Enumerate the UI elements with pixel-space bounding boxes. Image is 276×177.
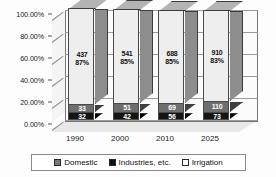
bar-segment-irrigation[interactable]: 437 87% — [68, 8, 94, 104]
legend-swatch-domestic-icon — [54, 159, 61, 166]
chart-legend: Domestic Industries, etc. Irrigation — [31, 154, 246, 171]
bar-segment-industries[interactable]: 73 — [203, 112, 229, 120]
bar-value-label-industries: 32 — [70, 113, 94, 121]
bar-value-label-irrigation: 688 — [160, 50, 184, 58]
bar-side-face — [95, 9, 108, 104]
bar-segment-irrigation[interactable]: 688 85% — [158, 10, 184, 103]
bar-side-face — [140, 10, 153, 103]
legend-item-irrigation[interactable]: Irrigation — [182, 158, 223, 167]
bar-value-label-domestic: 51 — [115, 104, 139, 112]
legend-label-irrigation: Irrigation — [192, 158, 223, 167]
y-axis-tick-label: 40.00% — [20, 76, 44, 85]
plot-area: 437 87% 33 32 541 85% 51 — [52, 10, 258, 132]
x-axis-label-2000: 2000 — [100, 134, 140, 143]
bar-segment-irrigation[interactable]: 910 83% — [203, 10, 229, 101]
bar-value-label-industries: 73 — [205, 113, 229, 121]
bar-value-label-irrigation: 910 — [205, 49, 229, 57]
bar-segment-domestic[interactable]: 33 — [68, 104, 94, 112]
bar-percent-label-irrigation: 85% — [115, 58, 139, 66]
bar-value-label-domestic: 69 — [160, 104, 184, 112]
legend-swatch-industries-icon — [109, 159, 116, 166]
bar-2025[interactable]: 910 83% 110 73 — [203, 10, 229, 120]
bar-value-label-industries: 42 — [115, 113, 139, 121]
y-axis-tick-label: 60.00% — [20, 54, 44, 63]
bar-segment-domestic[interactable]: 69 — [158, 103, 184, 112]
legend-item-domestic[interactable]: Domestic — [54, 158, 97, 167]
bar-side-face — [230, 11, 243, 101]
bar-segment-industries[interactable]: 56 — [158, 112, 184, 120]
y-axis-tick-label: 0.00% — [24, 120, 44, 129]
bar-segment-irrigation[interactable]: 541 85% — [113, 9, 139, 103]
bar-segment-domestic[interactable]: 110 — [203, 101, 229, 112]
x-axis-label-2025: 2025 — [190, 134, 230, 143]
bar-side-face — [185, 11, 198, 103]
bar-segment-industries[interactable]: 32 — [68, 112, 94, 120]
y-axis-tick-label: 20.00% — [20, 98, 44, 107]
y-axis: 100.00% 80.00% 60.00% 40.00% 20.00% 0.00… — [0, 14, 48, 132]
bar-percent-label-irrigation: 87% — [70, 59, 94, 67]
bar-value-label-irrigation: 437 — [70, 51, 94, 59]
legend-label-domestic: Domestic — [64, 158, 97, 167]
bar-segment-domestic[interactable]: 51 — [113, 103, 139, 112]
bar-value-label-domestic: 110 — [205, 103, 229, 111]
bar-percent-label-irrigation: 85% — [160, 58, 184, 66]
bar-segment-industries[interactable]: 42 — [113, 112, 139, 120]
bar-value-label-industries: 56 — [160, 113, 184, 121]
bar-2010[interactable]: 688 85% 69 56 — [158, 10, 184, 120]
legend-item-industries[interactable]: Industries, etc. — [109, 158, 171, 167]
y-axis-tick-label: 80.00% — [20, 32, 44, 41]
bar-2000[interactable]: 541 85% 51 42 — [113, 9, 139, 120]
bar-top-face — [69, 0, 108, 9]
bar-top-face — [114, 0, 153, 10]
bar-percent-label-irrigation: 83% — [205, 57, 229, 65]
x-axis-label-2010: 2010 — [145, 134, 185, 143]
bar-value-label-irrigation: 541 — [115, 50, 139, 58]
stacked-column-chart: 100.00% 80.00% 60.00% 40.00% 20.00% 0.00… — [0, 0, 276, 177]
y-axis-tick-label: 100.00% — [16, 10, 44, 19]
bar-1990[interactable]: 437 87% 33 32 — [68, 8, 94, 120]
x-axis-label-1990: 1990 — [55, 134, 95, 143]
legend-label-industries: Industries, etc. — [119, 158, 171, 167]
legend-swatch-irrigation-icon — [182, 159, 189, 166]
